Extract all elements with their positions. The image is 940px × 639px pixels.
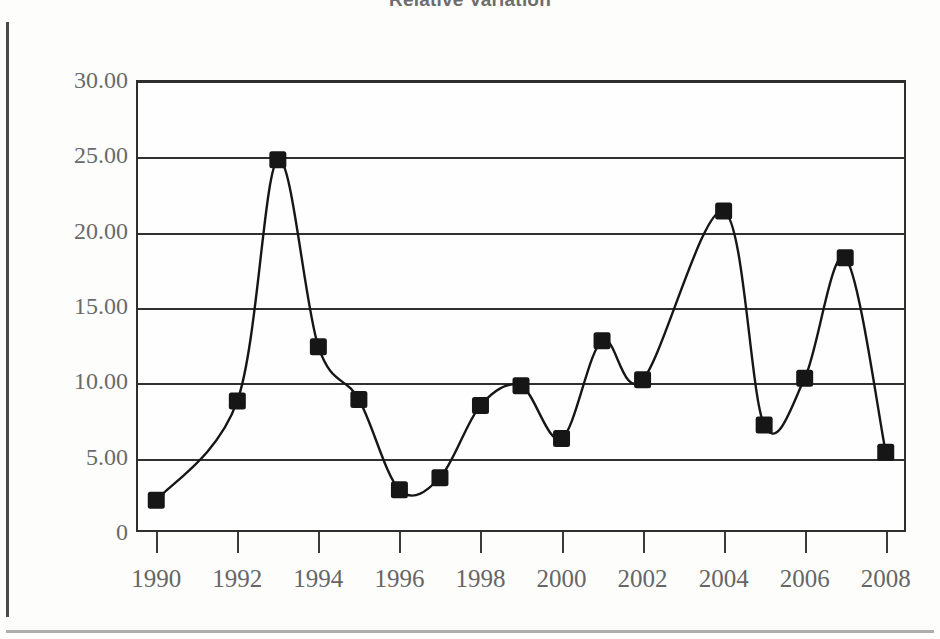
- x-axis-tick-label: 1994: [293, 565, 343, 593]
- chart-title: Relative Variation: [0, 0, 940, 11]
- x-axis-tick: [399, 532, 401, 553]
- data-point-marker: [431, 469, 448, 486]
- data-point-marker: [229, 392, 246, 409]
- x-axis-tick-label: 2008: [861, 565, 911, 593]
- x-axis-tick-label: 2004: [699, 565, 749, 593]
- y-axis-tick-label: 20.00: [10, 217, 128, 244]
- data-point-marker: [877, 444, 894, 461]
- data-point-marker: [756, 417, 773, 434]
- x-axis-tick-label: 1992: [212, 565, 262, 593]
- x-axis-tick: [562, 532, 564, 553]
- data-point-marker: [148, 492, 165, 509]
- data-point-marker: [594, 332, 611, 349]
- scanned-page: Relative Variation 30.0025.0020.0015.001…: [0, 0, 940, 639]
- data-point-marker: [472, 397, 489, 414]
- x-axis-tick: [318, 532, 320, 553]
- x-axis-tick-label: 2002: [618, 565, 668, 593]
- x-axis-labels: 1990199219941996199820002002200420062008: [0, 565, 940, 605]
- data-point-marker: [634, 371, 651, 388]
- y-axis-tick-label: 30.00: [10, 67, 128, 94]
- data-point-marker: [269, 151, 286, 168]
- data-point-marker: [715, 203, 732, 220]
- x-axis-tick: [805, 532, 807, 553]
- data-point-marker: [796, 370, 813, 387]
- page-bottom-border-rule: [6, 630, 934, 633]
- x-axis-tick: [886, 532, 888, 553]
- x-axis-ticks: [136, 532, 906, 554]
- x-axis-tick: [724, 532, 726, 553]
- data-point-marker: [391, 481, 408, 498]
- x-axis-tick: [480, 532, 482, 553]
- data-point-marker: [837, 249, 854, 266]
- x-axis-tick: [643, 532, 645, 553]
- data-point-marker: [310, 338, 327, 355]
- x-axis-tick-label: 1998: [455, 565, 505, 593]
- x-axis-tick: [156, 532, 158, 553]
- y-axis-tick-label: 0: [10, 519, 128, 546]
- x-axis-tick-label: 2000: [537, 565, 587, 593]
- y-axis-tick-label: 15.00: [10, 293, 128, 320]
- series-line: [156, 159, 885, 500]
- data-point-marker: [553, 430, 570, 447]
- y-axis-tick-label: 5.00: [10, 443, 128, 470]
- x-axis-tick: [237, 532, 239, 553]
- data-series-layer: [136, 80, 906, 532]
- x-axis-tick-label: 1996: [374, 565, 424, 593]
- y-axis-labels: 30.0025.0020.0015.0010.005.000: [0, 80, 128, 532]
- data-point-marker: [350, 391, 367, 408]
- y-axis-tick-label: 10.00: [10, 368, 128, 395]
- y-axis-tick-label: 25.00: [10, 142, 128, 169]
- data-point-marker: [513, 377, 530, 394]
- x-axis-tick-label: 1990: [131, 565, 181, 593]
- x-axis-tick-label: 2006: [780, 565, 830, 593]
